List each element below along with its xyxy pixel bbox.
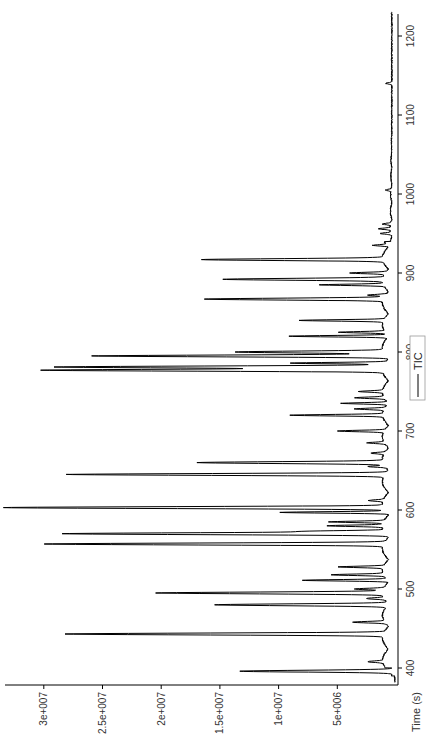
- time-tick-label: 500: [405, 580, 416, 597]
- time-tick-label: 1200: [405, 24, 416, 47]
- legend-label-tic: TIC: [412, 352, 424, 370]
- intensity-axis-ticks: 5e+0061e+0071.5e+0072e+0072.5e+0073e+007: [38, 685, 343, 734]
- intensity-tick-label: 1e+007: [273, 692, 284, 726]
- intensity-tick-label: 2e+007: [156, 692, 167, 726]
- intensity-tick-label: 5e+006: [332, 692, 343, 726]
- plot-area: [3, 12, 395, 682]
- tic-chromatogram-chart: 400500600700800900100011001200 5e+0061e+…: [0, 0, 438, 735]
- time-axis-label: Time (s): [410, 692, 422, 732]
- tic-series-line: [3, 12, 395, 682]
- time-tick-label: 900: [405, 264, 416, 281]
- intensity-tick-label: 3e+007: [38, 692, 49, 726]
- intensity-tick-label: 1.5e+007: [214, 692, 225, 734]
- time-tick-label: 600: [405, 501, 416, 518]
- time-tick-label: 1000: [405, 182, 416, 205]
- legend: TIC: [410, 336, 425, 400]
- intensity-tick-label: 2.5e+007: [97, 692, 108, 734]
- time-tick-label: 400: [405, 659, 416, 676]
- time-tick-label: 700: [405, 422, 416, 439]
- time-tick-label: 1100: [405, 104, 416, 126]
